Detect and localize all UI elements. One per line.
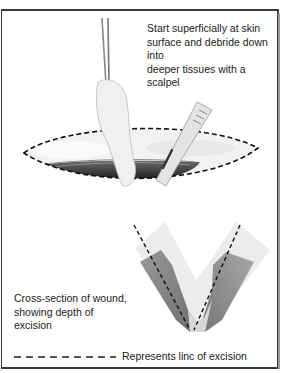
caption-line: Cross-section of wound,: [14, 292, 134, 306]
cross-section-caption: Cross-section of wound, showing depth of…: [14, 292, 134, 333]
caption-line: showing depth of excision: [14, 306, 134, 333]
wound-top-view: [24, 129, 258, 184]
legend-text: Represents linc of excision: [122, 350, 247, 364]
wound-cross-section: [134, 222, 270, 332]
top-caption: Start superficially at skin surface and …: [147, 22, 277, 90]
caption-line: deeper tissues with a scalpel: [147, 63, 277, 90]
caption-line: Start superficially at skin: [147, 22, 277, 36]
caption-line: surface and debride down into: [147, 36, 277, 63]
